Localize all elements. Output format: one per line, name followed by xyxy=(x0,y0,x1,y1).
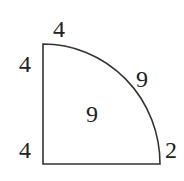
label-left-lower: 4 xyxy=(19,137,31,163)
label-right-bottom: 2 xyxy=(165,137,177,163)
label-arc: 9 xyxy=(136,66,148,92)
label-center: 9 xyxy=(86,101,98,127)
quarter-circle-diagram: 4 4 9 9 4 2 xyxy=(0,0,184,181)
label-left-upper: 4 xyxy=(19,51,31,77)
label-top: 4 xyxy=(53,16,65,42)
quarter-circle-shape xyxy=(43,44,160,164)
